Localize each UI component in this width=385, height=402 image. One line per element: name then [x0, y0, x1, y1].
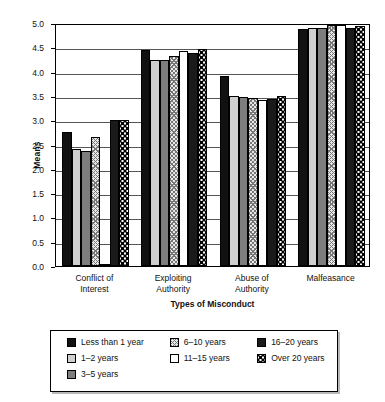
bar: [72, 149, 82, 266]
bar: [248, 98, 258, 266]
bar: [239, 97, 249, 266]
bar: [150, 60, 160, 266]
legend-label: Over 20 years: [271, 354, 324, 363]
x-axis-category-label: Malfeasance: [279, 273, 382, 284]
y-axis-tick-label: 1.0: [14, 214, 44, 223]
legend-item[interactable]: Less than 1 year: [67, 338, 170, 347]
y-axis-tick-label: 1.5: [14, 190, 44, 199]
bar: [81, 151, 91, 266]
bar: [229, 96, 239, 266]
legend-label: 3–5 years: [81, 370, 118, 379]
y-axis-tick-label: 0.5: [14, 239, 44, 248]
legend-column: 6–10 years11–15 years: [170, 338, 257, 379]
y-axis-title: Means: [32, 120, 42, 190]
bar: [267, 99, 277, 266]
bar-group: [292, 25, 371, 266]
bar: [188, 53, 198, 266]
x-axis-title: Types of Misconduct: [55, 299, 370, 309]
bar: [258, 100, 268, 266]
bar-group: [135, 25, 214, 266]
bar: [317, 28, 327, 266]
bar: [100, 264, 110, 266]
legend-label: Less than 1 year: [81, 338, 144, 347]
y-axis-tick-mark: [51, 267, 55, 268]
bar: [91, 137, 101, 266]
x-axis-category-label-line: Authority: [201, 284, 304, 295]
bar: [110, 120, 120, 266]
y-axis-tick-label: 5.0: [14, 20, 44, 29]
plot-area: [55, 24, 370, 267]
legend-item[interactable]: 16–20 years: [257, 338, 337, 347]
legend-swatch-icon: [67, 338, 76, 347]
bar: [160, 60, 170, 266]
y-axis-tick-label: 3.5: [14, 93, 44, 102]
legend-column: 16–20 yearsOver 20 years: [257, 338, 337, 379]
bar: [169, 56, 179, 266]
bar: [308, 28, 318, 266]
legend-item[interactable]: Over 20 years: [257, 354, 337, 363]
chart-screenshot: Means 5.04.54.03.53.02.52.01.51.00.50.0 …: [0, 0, 385, 402]
legend-column: Less than 1 year1–2 years3–5 years: [67, 338, 170, 379]
bar-group: [214, 25, 293, 266]
bar-chart: Means 5.04.54.03.53.02.52.01.51.00.50.0 …: [0, 0, 385, 320]
legend-swatch-icon: [170, 338, 179, 347]
bar: [346, 28, 356, 266]
legend-label: 11–15 years: [184, 354, 230, 363]
bar: [119, 120, 129, 266]
legend-item[interactable]: 11–15 years: [170, 354, 257, 363]
bar: [277, 96, 287, 266]
bar: [355, 26, 365, 266]
legend-item[interactable]: 6–10 years: [170, 338, 257, 347]
legend-swatch-icon: [257, 338, 266, 347]
bar: [220, 76, 230, 266]
bar-group: [56, 25, 135, 266]
bar: [179, 51, 189, 266]
legend-label: 1–2 years: [81, 354, 118, 363]
legend-swatch-icon: [170, 354, 179, 363]
y-axis-tick-label: 0.0: [14, 263, 44, 272]
y-axis-tick-label: 2.5: [14, 142, 44, 151]
legend-columns: Less than 1 year1–2 years3–5 years6–10 y…: [51, 331, 337, 379]
legend-swatch-icon: [67, 370, 76, 379]
bar: [198, 49, 208, 266]
legend-item[interactable]: 3–5 years: [67, 370, 170, 379]
y-axis-tick-label: 4.5: [14, 44, 44, 53]
legend-swatch-icon: [67, 354, 76, 363]
x-axis-category-label-line: Malfeasance: [279, 273, 382, 284]
y-axis-tick-label: 3.0: [14, 117, 44, 126]
legend-swatch-icon: [257, 354, 266, 363]
y-axis-tick-label: 4.0: [14, 69, 44, 78]
y-axis-tick-label: 2.0: [14, 166, 44, 175]
legend: Less than 1 year1–2 years3–5 years6–10 y…: [50, 330, 338, 392]
legend-label: 16–20 years: [271, 338, 318, 347]
legend-item[interactable]: 1–2 years: [67, 354, 170, 363]
bar: [298, 29, 308, 266]
bar: [62, 132, 72, 266]
bar: [141, 50, 151, 266]
bar: [336, 25, 346, 266]
legend-label: 6–10 years: [184, 338, 226, 347]
bar: [327, 25, 337, 266]
